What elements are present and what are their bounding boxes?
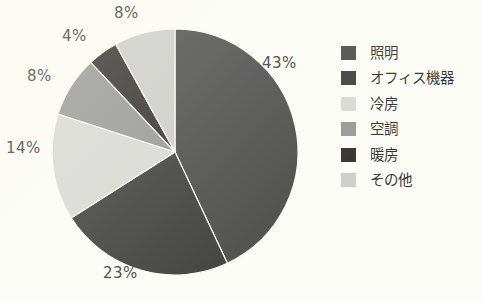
pie-svg bbox=[0, 0, 330, 302]
pie-label-lighting: 43% bbox=[262, 54, 297, 72]
legend-item[interactable]: 冷房 bbox=[341, 91, 482, 117]
pie-label-heating: 4% bbox=[62, 27, 87, 45]
legend-item-label: 空調 bbox=[370, 122, 398, 137]
legend-item[interactable]: 空調 bbox=[341, 117, 482, 143]
pie-plot-area: 43% 23% 14% 8% 4% 8% bbox=[0, 0, 330, 302]
pie-label-air-conditioning: 8% bbox=[27, 67, 52, 85]
legend-item-label: 照明 bbox=[370, 46, 398, 61]
legend-swatch-icon bbox=[341, 46, 356, 60]
legend-swatch-icon bbox=[341, 173, 356, 187]
legend-swatch-icon bbox=[341, 97, 356, 111]
legend-item[interactable]: 暖房 bbox=[341, 142, 482, 168]
pie-chart-figure: 43% 23% 14% 8% 4% 8% 照明オフィス機器冷房空調暖房その他 bbox=[0, 0, 482, 302]
chart-legend: 照明オフィス機器冷房空調暖房その他 bbox=[341, 40, 482, 193]
legend-item[interactable]: オフィス機器 bbox=[341, 66, 482, 92]
legend-item-label: 暖房 bbox=[370, 148, 398, 163]
legend-swatch-icon bbox=[341, 122, 356, 136]
legend-swatch-icon bbox=[341, 71, 356, 85]
pie-label-cooling: 14% bbox=[6, 139, 41, 157]
legend-item[interactable]: 照明 bbox=[341, 40, 482, 66]
legend-item-label: オフィス機器 bbox=[370, 71, 454, 86]
pie-label-office-equipment: 23% bbox=[103, 264, 138, 282]
legend-swatch-icon bbox=[341, 148, 356, 162]
legend-item-label: 冷房 bbox=[370, 97, 398, 112]
pie-label-other: 8% bbox=[114, 4, 139, 22]
legend-item[interactable]: その他 bbox=[341, 168, 482, 194]
legend-item-label: その他 bbox=[370, 173, 412, 188]
